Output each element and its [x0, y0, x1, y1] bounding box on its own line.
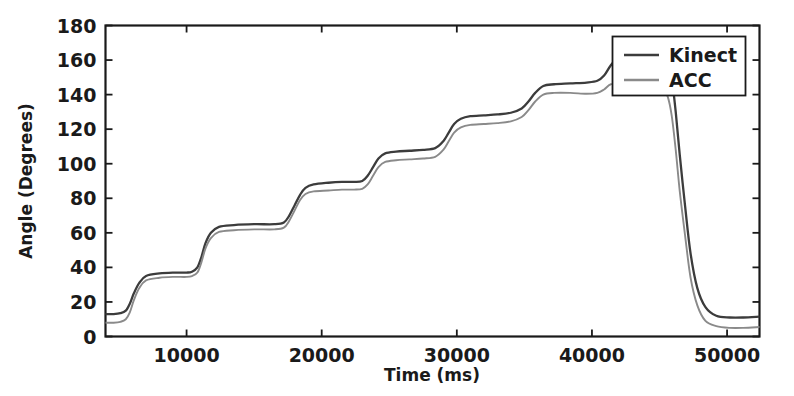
x-tick-label: 30000 — [424, 344, 490, 366]
y-axis-title: Angle (Degrees) — [16, 103, 36, 259]
y-tick-label: 180 — [57, 15, 97, 37]
legend-label-acc: ACC — [669, 69, 712, 91]
chart-figure: 020406080100120140160180 100002000030000… — [0, 0, 794, 396]
x-tick-label: 10000 — [154, 344, 220, 366]
legend-label-kinect: Kinect — [669, 44, 737, 66]
y-tick-label: 60 — [70, 222, 96, 244]
y-tick-label: 20 — [70, 291, 96, 313]
x-tick-label: 50000 — [694, 344, 760, 366]
y-tick-label: 40 — [70, 256, 96, 278]
x-tick-label: 20000 — [289, 344, 355, 366]
y-tick-label: 0 — [83, 326, 96, 348]
x-tick-label: 40000 — [559, 344, 625, 366]
legend: Kinect ACC — [613, 37, 746, 96]
y-tick-label: 80 — [70, 187, 96, 209]
y-tick-label: 100 — [57, 153, 97, 175]
x-axis-title: Time (ms) — [384, 365, 480, 385]
y-tick-label: 160 — [57, 49, 97, 71]
plot-canvas: 020406080100120140160180 100002000030000… — [0, 0, 794, 396]
y-tick-label: 120 — [57, 118, 97, 140]
y-tick-label: 140 — [57, 84, 97, 106]
